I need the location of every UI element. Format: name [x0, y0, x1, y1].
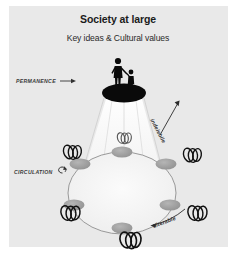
- node-upper-left: [70, 158, 91, 169]
- node-lower-right: [160, 199, 181, 210]
- knot-upper-right-icon: [182, 147, 203, 163]
- knot-lower-right-icon: [186, 204, 208, 221]
- node-top: [112, 146, 133, 157]
- knot-upper-left-icon: [62, 144, 83, 160]
- circular-arrow-icon: [59, 166, 68, 173]
- society-apex-node: [102, 84, 146, 103]
- permanence-label: PERMANENCE: [16, 78, 56, 84]
- page-subtitle: Key ideas & Cultural values: [0, 33, 236, 43]
- arrow-down-right-icon: [160, 100, 180, 135]
- circulation-label: CIRCULATION: [14, 169, 53, 175]
- page-title: Society at large: [0, 13, 236, 25]
- diagram-canvas: Society at large Key ideas & Cultural va…: [0, 0, 236, 262]
- node-upper-right: [156, 158, 177, 169]
- permanence-arrow-icon: [60, 79, 76, 83]
